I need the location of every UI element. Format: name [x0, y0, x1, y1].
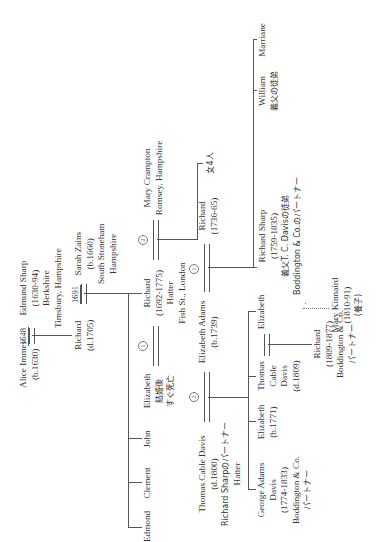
person-elizabeth-1: Elizabeth 結婚後 すぐ死亡	[142, 366, 177, 416]
child-line	[128, 482, 142, 483]
descent-line	[157, 239, 197, 240]
place-label: Berkshire	[41, 248, 53, 328]
person-mary-kinnaird: Mary Kinnaird (1810-91) (養子)	[330, 270, 365, 340]
child-line	[248, 489, 256, 490]
marriage-line	[153, 326, 159, 366]
marriage-order-badge: 1	[189, 264, 199, 274]
person-richard-1736: Richard (1736-65)	[197, 188, 220, 244]
descent-line	[208, 397, 248, 398]
descent-line	[84, 293, 128, 294]
child-line	[128, 438, 142, 439]
place-label: South Stoneham	[96, 224, 108, 285]
dates-label: (1630-94)	[30, 248, 42, 328]
name-label: 女4人	[205, 148, 217, 178]
note-label: 義父の徒弟	[269, 61, 281, 121]
occupation-label: Hatter	[165, 260, 177, 326]
person-clement: Clement	[142, 466, 154, 500]
marriage-line	[204, 244, 210, 292]
person-thomas-cable-davis-1800: Thomas Cable Davis (d.1800) Richard Shar…	[197, 422, 243, 526]
dates-label: (b.1630)	[30, 341, 42, 388]
place-label: Timsbury, Hampshire	[53, 248, 65, 328]
adoption-line	[305, 303, 306, 304]
name-label: John	[142, 426, 154, 452]
note-label: Richard Sharpのパートナー	[220, 422, 232, 526]
child-line	[197, 163, 203, 164]
name-label: William	[257, 61, 269, 121]
sibling-bar	[197, 164, 198, 240]
dates-label: (1774-1833)	[279, 450, 291, 530]
sibling-bar	[128, 293, 129, 528]
place-label: Romsey, Hampshire	[154, 136, 166, 220]
name-label: Richard	[142, 260, 154, 326]
sibling-bar	[248, 312, 249, 490]
marriage-line	[29, 328, 35, 344]
name-label: Davis	[268, 450, 280, 530]
child-line	[248, 376, 256, 377]
person-marriane: Marriane	[257, 20, 269, 60]
name-label: Thomas Cable Davis	[197, 422, 209, 526]
name-label: Edmond	[142, 512, 154, 542]
dates-label: (1692-1775)	[154, 260, 166, 326]
place-label: Hampshire	[108, 224, 120, 285]
marriage-order-badge: 2	[138, 235, 148, 245]
child-line	[248, 421, 256, 422]
name-label: Richard Sharp	[257, 172, 269, 300]
child-line	[128, 527, 142, 528]
descent-line	[268, 344, 312, 345]
name-label: Richard	[73, 320, 85, 351]
sibling-bar	[253, 40, 254, 268]
person-john: John	[142, 426, 154, 452]
name-label: Clement	[142, 466, 154, 500]
name-label: Alice Immes	[18, 341, 30, 388]
name-label: Richard	[312, 302, 324, 386]
name-label: Marriane	[257, 20, 269, 60]
dates-label: (1810-91)	[342, 270, 354, 340]
adoption-line	[303, 307, 329, 309]
descent-line	[32, 335, 72, 336]
dates-label: (1736-65)	[209, 188, 221, 244]
occupation-label: Hatter	[232, 422, 244, 526]
marriage-line	[81, 284, 87, 304]
marriage-line	[153, 220, 159, 260]
dates-label: (d.1705)	[85, 320, 97, 351]
marriage-order-badge: 1	[138, 341, 148, 351]
marriage-year-1691: 1691	[70, 285, 81, 304]
person-richard-1692: Richard (1692-1775) Hatter Fish St., Lon…	[142, 260, 188, 326]
dates-label: (1759-1835)	[269, 172, 281, 300]
name-label: Mary Crampton	[142, 136, 154, 220]
name-label: Edmund Sharp	[18, 248, 30, 328]
name-label: Elizabeth	[142, 366, 154, 416]
person-mary-crampton: Mary Crampton Romsey, Hampshire	[142, 136, 165, 220]
firm-label: Boddington & Co.	[291, 450, 303, 530]
group-daughters-4: 女4人	[205, 148, 217, 178]
marriage-line	[264, 334, 270, 356]
name-label: Thomas	[256, 356, 268, 396]
child-line	[248, 311, 256, 312]
person-edmund-sharp: Edmund Sharp (1630-94) Berkshire Timsbur…	[18, 248, 64, 328]
marriage-year-1648: 1648	[18, 327, 29, 346]
name-label: Mary Kinnaird	[330, 270, 342, 340]
person-sarah-zains: Sarah Zains (b.1660) South Stoneham Hamp…	[73, 224, 119, 285]
person-elizabeth-1771: Elizabeth (b.1771)	[256, 398, 279, 446]
person-george-adams-davis: George Adams Davis (1774-1833) Boddingto…	[256, 450, 314, 530]
person-richard-d1705: Richard (d.1705)	[73, 320, 96, 351]
note-label: (養子)	[353, 270, 365, 340]
person-richard-sharp: Richard Sharp (1759-1835) 義父T. C. Davisの…	[257, 172, 303, 300]
person-edmond: Edmond	[142, 512, 154, 542]
dates-label: (d.1809)	[291, 356, 303, 396]
child-line	[128, 293, 142, 294]
dates-label: (d.1800)	[209, 422, 221, 526]
note-label: すぐ死亡	[165, 366, 177, 416]
note-label: 義父T. C. Davisの徒弟	[280, 172, 292, 300]
person-alice-immes: Alice Immes (b.1630)	[18, 341, 41, 388]
marriage-order-badge: 2	[189, 392, 199, 402]
place-label: Fish St., London	[177, 260, 189, 326]
note-label: Boddington & Co.のパートナー	[292, 172, 304, 300]
name-label: George Adams	[256, 450, 268, 530]
dates-label: (b.1660)	[85, 224, 97, 285]
note-label: パートナー	[302, 450, 314, 530]
name-label: Davis	[279, 356, 291, 396]
name-label: Elizabeth Adams	[197, 292, 209, 372]
name-label: Cable	[268, 356, 280, 396]
